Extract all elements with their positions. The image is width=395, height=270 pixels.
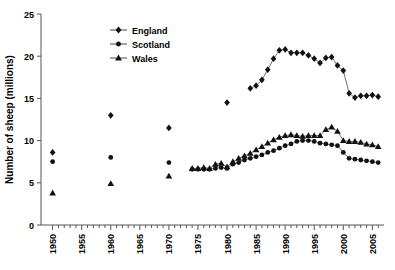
data-point-circle <box>283 143 288 148</box>
x-axis-tick-label: 1965 <box>135 234 145 254</box>
x-axis-tick-label: 2000 <box>339 234 349 254</box>
data-point-diamond <box>166 125 172 132</box>
data-point-diamond <box>352 94 358 101</box>
x-axis-tick-label: 1955 <box>77 234 87 254</box>
data-point-diamond <box>364 92 370 99</box>
data-point-triangle <box>305 132 312 138</box>
series-england <box>50 46 381 156</box>
chart-legend: EnglandScotlandWales <box>110 26 170 64</box>
chart-canvas: 0510152025 19501955196019651970197519801… <box>0 0 395 270</box>
data-point-circle <box>50 159 55 164</box>
data-point-triangle <box>311 132 318 138</box>
data-point-triangle <box>352 138 359 144</box>
data-point-diamond <box>282 46 288 53</box>
y-axis: 0510152025 <box>24 10 41 231</box>
data-point-circle <box>364 158 369 163</box>
data-point-circle <box>242 158 247 163</box>
data-point-diamond <box>247 85 253 92</box>
data-point-diamond <box>370 92 376 99</box>
data-point-triangle <box>328 124 335 130</box>
data-point-diamond <box>116 27 122 34</box>
data-point-diamond <box>375 93 381 100</box>
x-axis-tick-label: 2005 <box>368 234 378 254</box>
x-axis-tick-label: 1970 <box>164 234 174 254</box>
data-point-diamond <box>265 66 271 73</box>
data-point-diamond <box>224 99 230 106</box>
data-point-triangle <box>259 143 266 149</box>
data-point-circle <box>376 160 381 165</box>
y-axis-tick-label: 0 <box>29 221 34 231</box>
x-axis: 1950195519601965197019751980198519901995… <box>41 225 384 254</box>
data-point-triangle <box>264 140 271 146</box>
data-point-triangle <box>218 160 225 166</box>
data-point-circle <box>294 139 299 144</box>
legend-item-wales: Wales <box>110 54 158 64</box>
data-point-circle <box>335 143 340 148</box>
data-point-diamond <box>358 92 364 99</box>
sheep-population-chart: 0510152025 19501955196019651970197519801… <box>0 0 395 270</box>
legend-item-scotland: Scotland <box>110 40 170 50</box>
y-axis-title-text: Number of sheep (millions) <box>4 55 15 184</box>
x-axis-tick-label: 1985 <box>252 234 262 254</box>
data-point-circle <box>271 148 276 153</box>
data-point-circle <box>265 150 270 155</box>
data-point-circle <box>260 153 265 158</box>
y-axis-tick-label: 5 <box>29 178 34 188</box>
y-axis-tick-label: 25 <box>24 10 34 20</box>
data-point-triangle <box>241 152 248 158</box>
data-point-circle <box>236 160 241 165</box>
data-point-diamond <box>108 112 114 119</box>
legend-label: Scotland <box>132 40 170 50</box>
data-point-circle <box>312 139 317 144</box>
data-point-triangle <box>323 126 330 132</box>
legend-label: England <box>132 26 168 36</box>
data-point-circle <box>289 142 294 147</box>
data-point-triangle <box>200 164 207 170</box>
data-point-triangle <box>247 150 254 156</box>
data-point-circle <box>254 154 259 159</box>
y-axis-title: Number of sheep (millions) <box>4 55 15 184</box>
data-point-circle <box>300 138 305 143</box>
data-point-circle <box>306 138 311 143</box>
x-axis-tick-label: 1990 <box>281 234 291 254</box>
data-point-circle <box>347 156 352 161</box>
x-axis-tick-label: 1950 <box>48 234 58 254</box>
data-point-circle <box>370 159 375 164</box>
data-point-circle <box>323 142 328 147</box>
x-axis-tick-label: 1960 <box>106 234 116 254</box>
y-axis-tick-label: 15 <box>24 94 34 104</box>
data-point-circle <box>108 155 113 160</box>
x-axis-tick-label: 1980 <box>223 234 233 254</box>
data-point-diamond <box>311 55 317 62</box>
series-wales <box>49 124 381 196</box>
x-axis-tick-label: 1975 <box>193 234 203 254</box>
data-point-triangle <box>107 180 114 186</box>
data-point-diamond <box>288 49 294 56</box>
data-point-triangle <box>235 155 242 161</box>
data-point-circle <box>329 142 334 147</box>
data-point-circle <box>213 166 218 171</box>
data-point-diamond <box>340 67 346 74</box>
data-point-diamond <box>294 49 300 56</box>
data-point-circle <box>318 141 323 146</box>
data-point-triangle <box>288 131 295 137</box>
data-point-triangle <box>189 165 196 171</box>
y-axis-tick-label: 20 <box>24 52 34 62</box>
data-point-triangle <box>49 190 56 196</box>
data-point-circle <box>116 42 121 47</box>
data-point-triangle <box>230 158 237 164</box>
data-point-diamond <box>317 60 323 67</box>
data-point-triangle <box>253 147 260 153</box>
data-point-circle <box>219 165 224 170</box>
data-point-triangle <box>166 173 173 179</box>
data-point-circle <box>248 156 253 161</box>
data-point-circle <box>353 157 358 162</box>
data-point-circle <box>167 160 172 165</box>
x-axis-tick-label: 1995 <box>310 234 320 254</box>
y-axis-tick-label: 10 <box>24 136 34 146</box>
legend-item-england: England <box>110 26 168 36</box>
series-group <box>49 46 381 195</box>
data-point-diamond <box>300 49 306 56</box>
data-point-circle <box>358 158 363 163</box>
data-point-triangle <box>340 137 347 143</box>
